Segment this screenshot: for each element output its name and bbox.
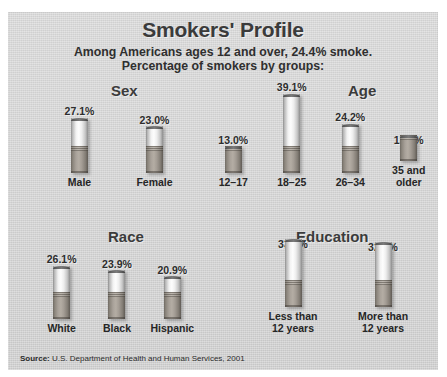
group-heading-race: Race (108, 228, 144, 245)
bar-slot: 23.0%Female (117, 104, 192, 188)
bar-category-label: 18–25 (277, 177, 306, 189)
cigarette-tip-icon (283, 94, 300, 97)
cigarette-bar (71, 118, 88, 173)
chart-group-race: 26.1%White23.9%Black20.9%Hispanic (34, 252, 200, 334)
bar-value-label: 23.9% (102, 258, 132, 270)
cigarette-tip-icon (71, 118, 88, 121)
group-heading-sex: Sex (111, 82, 138, 99)
source-note: Source: U.S. Department of Health and Hu… (20, 354, 245, 363)
subtitle-line-2: Percentage of smokers by groups: (8, 59, 438, 73)
cigarette-tip-icon (375, 242, 392, 245)
cigarette-tip-icon (164, 276, 181, 279)
bar-category-label: More than 12 years (358, 311, 408, 334)
cigarette-filter-segment (283, 146, 300, 173)
cigarette-filter-segment (225, 146, 242, 172)
bar-category-label: Hispanic (150, 323, 194, 335)
source-text: U.S. Department of Health and Human Serv… (52, 354, 245, 363)
bar-slot: 13.1%35 and older (380, 104, 439, 188)
bar-value-label: 20.9% (157, 264, 187, 276)
cigarette-filter-segment (164, 292, 181, 319)
bar-value-label: 24.2% (335, 111, 365, 123)
cigarette-tip-icon (285, 239, 302, 242)
cigarette-bar (283, 94, 300, 173)
cigarette-tip-icon (146, 126, 163, 129)
cigarette-filter-segment (375, 280, 392, 307)
infographic-panel: Smokers' Profile Among Americans ages 12… (8, 12, 438, 370)
bar-category-label: Black (103, 323, 131, 335)
cigarette-bar (164, 276, 181, 318)
cigarette-bar (285, 239, 302, 307)
cigarette-paper-segment (71, 118, 88, 146)
cigarette-filter-segment (53, 292, 70, 319)
cigarette-tip-icon (108, 270, 125, 273)
cigarette-paper-segment (375, 242, 392, 280)
cigarette-bar (53, 266, 70, 319)
cigarette-paper-segment (285, 239, 302, 280)
bar-category-label: White (47, 323, 76, 335)
bar-value-label: 39.1% (277, 81, 307, 93)
chart-group-age: 13.0%12–1739.1%18–2524.2%26–3413.1%35 an… (204, 104, 438, 188)
cigarette-paper-segment (53, 266, 70, 292)
bar-value-label: 13.0% (218, 134, 248, 146)
bar-slot: 23.9%Black (89, 252, 144, 334)
page-title: Smokers' Profile (8, 18, 438, 42)
cigarette-filter-segment (342, 146, 359, 173)
bar-slot: 13.0%12–17 (204, 104, 263, 188)
bar-slot: 32.1%More than 12 years (338, 252, 428, 334)
source-label: Source: (20, 354, 50, 363)
bar-category-label: Female (136, 177, 172, 189)
subtitle: Among Americans ages 12 and over, 24.4% … (8, 45, 438, 73)
cigarette-paper-segment (146, 126, 163, 145)
bar-slot: 24.2%26–34 (321, 104, 380, 188)
cigarette-tip-icon (53, 266, 70, 269)
cigarette-filter-segment (400, 135, 417, 161)
bar-value-label: 26.1% (47, 253, 77, 265)
cigarette-bar (146, 126, 163, 172)
bar-category-label: 12–17 (219, 177, 248, 189)
bar-slot: 33.8%Less than 12 years (248, 252, 338, 334)
bar-slot: 39.1%18–25 (263, 104, 322, 188)
bar-slot: 26.1%White (34, 252, 89, 334)
cigarette-bar (342, 124, 359, 173)
cigarette-paper-segment (108, 270, 125, 291)
cigarette-filter-segment (285, 280, 302, 307)
bar-slot: 27.1%Male (42, 104, 117, 188)
bar-category-label: 26–34 (336, 177, 365, 189)
group-heading-age: Age (348, 82, 376, 99)
cigarette-filter-segment (108, 292, 125, 319)
bar-category-label: Male (68, 177, 91, 189)
bar-value-label: 23.0% (140, 114, 170, 126)
cigarette-tip-icon (400, 135, 417, 138)
bar-slot: 20.9%Hispanic (145, 252, 200, 334)
cigarette-paper-segment (164, 276, 181, 291)
cigarette-paper-segment (342, 124, 359, 146)
cigarette-tip-icon (342, 124, 359, 127)
chart-group-education: 33.8%Less than 12 years32.1%More than 12… (248, 252, 428, 334)
cigarette-bar (400, 135, 417, 161)
cigarette-filter-segment (146, 146, 163, 173)
cigarette-filter-segment (71, 146, 88, 173)
bar-category-label: 35 and older (392, 165, 425, 188)
bar-category-label: Less than 12 years (268, 311, 317, 334)
cigarette-bar (108, 270, 125, 318)
subtitle-line-1: Among Americans ages 12 and over, 24.4% … (8, 45, 438, 59)
cigarette-bar (225, 146, 242, 172)
cigarette-tip-icon (225, 146, 242, 149)
cigarette-paper-segment (283, 94, 300, 146)
bar-value-label: 27.1% (65, 105, 95, 117)
cigarette-bar (375, 242, 392, 307)
chart-group-sex: 27.1%Male23.0%Female (42, 104, 192, 188)
